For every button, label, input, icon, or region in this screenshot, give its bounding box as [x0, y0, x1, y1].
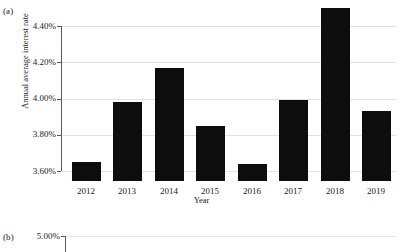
y-axis-line — [61, 26, 62, 171]
bar-2012[interactable] — [72, 162, 101, 181]
bar-2013[interactable] — [113, 102, 142, 181]
panel-b-chart: (b) 5.00% — [0, 206, 403, 246]
bar-2015[interactable] — [196, 126, 225, 181]
y-tick-mark — [57, 99, 61, 100]
panel-a-bar-chart: (a) Annual average interest rate 4.40% 4… — [0, 0, 403, 203]
y-tick-mark — [57, 171, 61, 172]
y-axis-tick-labels: 4.40% 4.20% 4.00% 3.80% 3.60% — [0, 4, 56, 181]
y-tick-label: 3.80% — [4, 130, 56, 139]
x-axis-title: Year — [0, 195, 403, 205]
bar-2018[interactable] — [321, 8, 350, 181]
bar-2016[interactable] — [238, 164, 267, 181]
plot-area: 2012 2013 2014 2015 2016 2017 2018 2019 — [61, 4, 396, 181]
y-tick-mark — [57, 62, 61, 63]
y-tick-label: 3.60% — [4, 167, 56, 176]
bar-2017[interactable] — [279, 100, 308, 181]
bar-2014[interactable] — [155, 68, 184, 181]
y-tick-mark — [57, 26, 61, 27]
y-tick-mark — [57, 135, 61, 136]
panel-b-y-axis-line — [65, 236, 66, 252]
panel-b-y-tick-label: 5.00% — [16, 232, 60, 241]
panel-b-gridline-500 — [65, 236, 396, 237]
y-tick-label: 4.00% — [4, 94, 56, 103]
panel-b-label: (b) — [3, 232, 14, 242]
y-tick-label: 4.20% — [4, 58, 56, 67]
bar-2019[interactable] — [362, 111, 391, 181]
y-tick-label: 4.40% — [4, 22, 56, 31]
